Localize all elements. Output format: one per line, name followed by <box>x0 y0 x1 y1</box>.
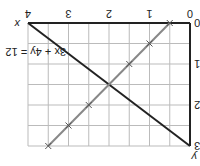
y-axis-label: y <box>190 151 198 163</box>
x-tick-labels: 0 1 2 3 4 <box>25 8 193 20</box>
chart-stage: 0 1 2 3 4 0 1 2 3 x y 3x + 4y = 12 <box>0 0 200 166</box>
equation-label: 3x + 4y = 12 <box>5 46 66 58</box>
y-tick-labels: 0 1 2 3 <box>194 17 200 152</box>
x-tick-label: 3 <box>65 8 71 20</box>
chart-svg: 0 1 2 3 4 0 1 2 3 x y 3x + 4y = 12 <box>0 0 200 166</box>
x-tick-label: 2 <box>106 8 112 20</box>
y-tick-label: 1 <box>194 58 200 70</box>
y-tick-label: 0 <box>194 17 200 29</box>
y-tick-label: 2 <box>194 99 200 111</box>
x-tick-label: 0 <box>187 8 193 20</box>
x-axis-label: x <box>14 18 21 30</box>
x-tick-label: 4 <box>25 8 31 20</box>
x-tick-label: 1 <box>146 8 152 20</box>
